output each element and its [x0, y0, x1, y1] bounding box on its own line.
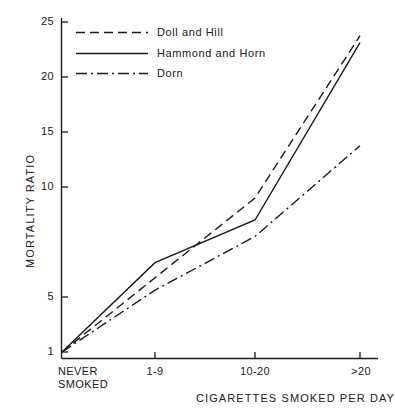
legend-label-doll-and-hill: Doll and Hill [157, 26, 224, 38]
legend-label-dorn: Dorn [157, 67, 183, 79]
y-tick-label-25: 25 [28, 15, 54, 27]
x-tick-label-10-20: 10-20 [240, 365, 270, 377]
series-line-dorn [62, 146, 360, 352]
series-line-doll-and-hill [62, 36, 360, 352]
x-tick-label-never: NEVER [58, 365, 98, 377]
legend-sample-lines [76, 33, 148, 74]
y-axis-ticks [62, 22, 69, 352]
x-tick-label-gt-20: >20 [351, 365, 371, 377]
y-tick-label-5: 5 [28, 290, 54, 302]
y-axis-title: MORTALITY RATIO [24, 154, 36, 268]
y-tick-label-20: 20 [28, 70, 54, 82]
series-line-hammond-and-horn [62, 43, 360, 352]
y-tick-label-15: 15 [28, 125, 54, 137]
x-axis-title: CIGARETTES SMOKED PER DAY [196, 392, 395, 404]
x-tick-label-1-9: 1-9 [146, 365, 163, 377]
x-tick-label-smoked: SMOKED [58, 378, 108, 390]
x-axis-ticks [155, 352, 360, 359]
legend-label-hammond-and-horn: Hammond and Horn [157, 47, 266, 59]
y-tick-label-1: 1 [28, 345, 54, 357]
